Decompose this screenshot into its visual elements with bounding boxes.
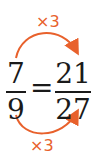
left-numerator: 7 bbox=[6, 60, 26, 88]
left-denominator: 9 bbox=[6, 96, 26, 124]
equals-sign: = bbox=[30, 74, 53, 102]
right-denominator: 27 bbox=[55, 96, 91, 124]
left-fraction: 7 9 bbox=[6, 60, 26, 124]
top-multiplier-label: ×3 bbox=[36, 14, 60, 30]
right-fraction: 21 27 bbox=[55, 60, 91, 124]
top-arrow-icon bbox=[16, 33, 77, 58]
bottom-multiplier-label: ×3 bbox=[30, 138, 54, 154]
right-numerator: 21 bbox=[55, 60, 91, 88]
